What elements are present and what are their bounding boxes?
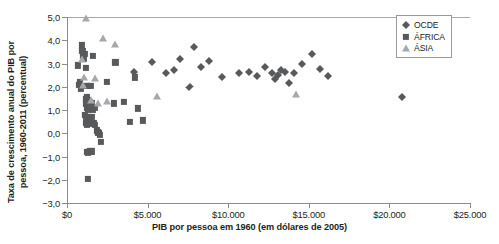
data-point-ásia bbox=[80, 73, 88, 80]
data-point-ocde bbox=[316, 61, 324, 69]
data-point-ásia bbox=[79, 81, 87, 88]
diamond-marker-icon bbox=[401, 20, 411, 30]
data-point-áfrica bbox=[75, 62, 81, 68]
data-point-áfrica bbox=[111, 100, 117, 106]
y-tick-mark bbox=[62, 17, 67, 18]
legend-item: ÁFRICA bbox=[401, 31, 445, 42]
data-point-ocde bbox=[245, 64, 253, 72]
y-tick-label: 1,0 bbox=[48, 105, 60, 116]
data-point-áfrica bbox=[135, 105, 141, 111]
data-point-áfrica bbox=[132, 74, 138, 80]
y-tick-mark bbox=[62, 40, 67, 41]
data-point-ocde bbox=[130, 64, 138, 72]
legend-item: ÁSIA bbox=[401, 43, 445, 54]
data-point-áfrica bbox=[82, 65, 88, 71]
y-tick-label: 2,0 bbox=[48, 81, 60, 92]
y-tick-mark bbox=[62, 180, 67, 181]
data-point-ocde bbox=[176, 51, 184, 59]
legend-item: OCDE bbox=[401, 20, 445, 31]
x-tick-label: $20.000 bbox=[373, 209, 406, 220]
y-axis-title-line2: pessoa, 1960-2011 (percentual) bbox=[17, 56, 29, 188]
x-tick-label: $0 bbox=[62, 209, 72, 220]
data-point-ásia bbox=[99, 34, 107, 41]
data-point-áfrica bbox=[121, 99, 127, 105]
data-point-áfrica bbox=[89, 148, 95, 154]
y-tick-mark bbox=[62, 110, 67, 111]
data-point-áfrica bbox=[87, 83, 93, 89]
data-point-ocde bbox=[277, 62, 285, 70]
data-point-ocde bbox=[205, 53, 213, 61]
data-point-áfrica bbox=[97, 139, 103, 145]
data-point-áfrica bbox=[104, 79, 110, 85]
data-point-ocde bbox=[298, 56, 306, 64]
x-tick-label: $25.000 bbox=[454, 209, 487, 220]
scatter-chart: Taxa de crescimento anual do PIB por pes… bbox=[0, 0, 499, 244]
x-tick-mark bbox=[389, 203, 390, 208]
triangle-marker-icon bbox=[401, 43, 411, 53]
x-axis-line bbox=[67, 203, 470, 204]
legend-label: OCDE bbox=[414, 20, 438, 30]
y-tick-mark bbox=[62, 133, 67, 134]
data-point-áfrica bbox=[85, 176, 91, 182]
y-axis-line bbox=[67, 17, 68, 203]
x-tick-label: $5.000 bbox=[134, 209, 161, 220]
data-point-ocde bbox=[186, 79, 194, 87]
y-tick-mark bbox=[62, 157, 67, 158]
data-point-ocde bbox=[148, 54, 156, 62]
legend-label: ÁSIA bbox=[414, 43, 433, 53]
data-point-ocde bbox=[162, 65, 170, 73]
marker-glyph bbox=[402, 17, 410, 25]
data-point-ocde bbox=[190, 39, 198, 47]
data-point-ásia bbox=[292, 90, 300, 97]
data-point-ocde bbox=[253, 68, 261, 76]
data-point-ocde bbox=[218, 69, 226, 77]
y-axis-title: Taxa de crescimento anual do PIB por pes… bbox=[0, 0, 34, 244]
legend-label: ÁFRICA bbox=[414, 32, 445, 42]
data-point-áfrica bbox=[112, 59, 118, 65]
y-tick-label: 3,0 bbox=[48, 58, 60, 69]
square-marker-icon bbox=[401, 32, 411, 42]
data-point-ásia bbox=[103, 97, 111, 104]
data-point-ásia bbox=[91, 74, 99, 81]
y-tick-mark bbox=[62, 64, 67, 65]
y-tick-mark bbox=[62, 87, 67, 88]
data-point-ásia bbox=[111, 40, 119, 47]
data-point-ásia bbox=[153, 92, 161, 99]
data-point-ocde bbox=[235, 65, 243, 73]
y-tick-label: 0,0 bbox=[48, 128, 60, 139]
data-point-áfrica bbox=[140, 117, 146, 123]
x-tick-mark bbox=[309, 203, 310, 208]
data-point-áfrica bbox=[90, 53, 96, 59]
y-tick-label: 5,0 bbox=[48, 12, 60, 23]
y-axis-title-line1: Taxa de crescimento anual do PIB por bbox=[5, 41, 17, 203]
x-tick-mark bbox=[148, 203, 149, 208]
x-tick-label: $15.000 bbox=[293, 209, 326, 220]
x-tick-label: $10.000 bbox=[212, 209, 245, 220]
data-point-ásia bbox=[82, 15, 90, 22]
data-point-ocde bbox=[324, 68, 332, 76]
y-tick-label: −1,0 bbox=[42, 151, 60, 162]
data-point-ásia bbox=[78, 56, 86, 63]
data-point-ocde bbox=[271, 71, 279, 79]
x-tick-mark bbox=[228, 203, 229, 208]
data-point-ocde bbox=[398, 89, 406, 97]
x-axis-title: PIB por pessoa em 1960 (em dólares de 20… bbox=[0, 222, 499, 232]
x-tick-mark bbox=[470, 203, 471, 208]
y-tick-label: −3,0 bbox=[42, 198, 60, 209]
data-point-ocde bbox=[308, 46, 316, 54]
marker-glyph bbox=[403, 33, 409, 39]
data-point-áfrica bbox=[127, 119, 133, 125]
data-point-ásia bbox=[94, 100, 102, 107]
data-point-ocde bbox=[290, 65, 298, 73]
marker-glyph bbox=[402, 45, 410, 52]
data-point-áfrica bbox=[97, 132, 103, 138]
y-tick-label: 4,0 bbox=[48, 35, 60, 46]
x-tick-mark bbox=[67, 203, 68, 208]
data-point-ocde bbox=[197, 59, 205, 67]
legend: OCDEÁFRICAÁSIA bbox=[396, 15, 452, 58]
y-tick-label: −2,0 bbox=[42, 174, 60, 185]
